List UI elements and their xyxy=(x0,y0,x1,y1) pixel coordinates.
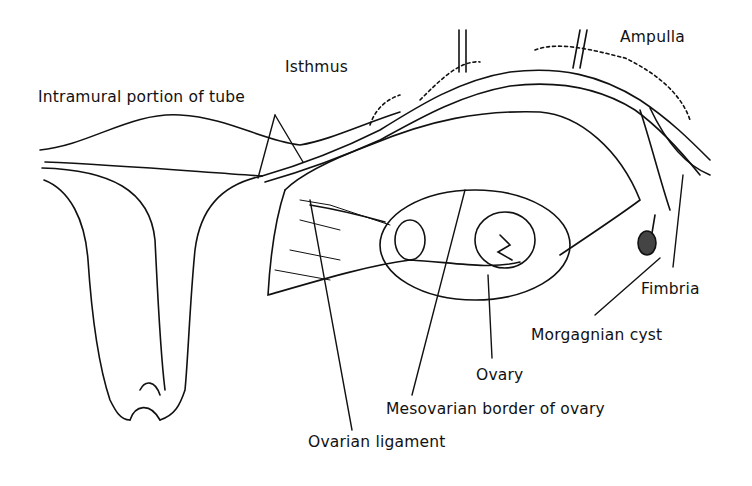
fallopian-tube xyxy=(262,30,710,210)
label-morgagnian-cyst: Morgagnian cyst xyxy=(531,326,662,344)
morgagnian-cyst-shape xyxy=(638,231,656,255)
label-fimbria: Fimbria xyxy=(641,280,700,298)
label-ovary: Ovary xyxy=(476,366,523,384)
uterus-outline xyxy=(40,112,400,420)
label-ovarian-ligament: Ovarian ligament xyxy=(308,433,446,451)
ovary xyxy=(380,190,570,300)
anatomy-diagram: Isthmus Ampulla Intramural portion of tu… xyxy=(0,0,752,486)
label-intramural-portion: Intramural portion of tube xyxy=(38,88,245,106)
label-isthmus: Isthmus xyxy=(285,58,348,76)
anatomy-drawing xyxy=(0,0,752,486)
label-mesovarian-border: Mesovarian border of ovary xyxy=(386,400,605,418)
ovarian-ligament-line xyxy=(310,205,385,222)
label-ampulla: Ampulla xyxy=(620,28,685,46)
